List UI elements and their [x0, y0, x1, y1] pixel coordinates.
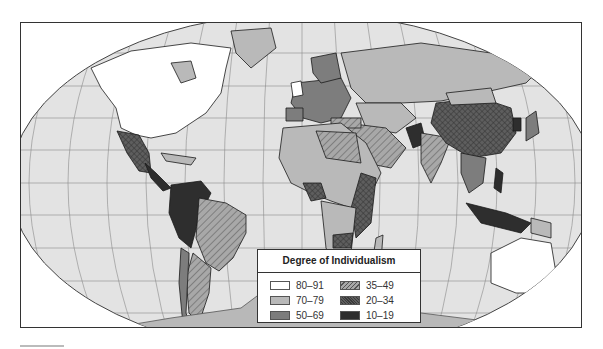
legend-label: 20–34 — [366, 295, 394, 306]
legend-item-80-91: 80–91 — [270, 278, 340, 292]
decorative-rule — [20, 345, 64, 347]
philippines — [494, 168, 503, 193]
swatch-light-gray — [270, 296, 290, 305]
swatch-white — [270, 281, 290, 290]
legend-label: 80–91 — [296, 280, 324, 291]
legend-item-35-49: 35–49 — [340, 278, 410, 292]
swatch-crosshatch — [340, 296, 360, 305]
legend-label: 10–19 — [366, 310, 394, 321]
map-frame: Degree of Individualism 80–91 35–49 70–7… — [20, 22, 582, 328]
legend-item-50-69: 50–69 — [270, 308, 340, 322]
uk — [291, 81, 303, 97]
swatch-medium-gray — [270, 311, 290, 320]
legend: Degree of Individualism 80–91 35–49 70–7… — [257, 249, 421, 323]
legend-label: 50–69 — [296, 310, 324, 321]
legend-label: 35–49 — [366, 280, 394, 291]
korea — [513, 118, 521, 131]
legend-items: 80–91 35–49 70–79 20–34 50–69 10–19 — [258, 273, 420, 322]
new-zealand — [571, 285, 582, 308]
spain — [286, 108, 303, 121]
zambia — [333, 233, 353, 248]
legend-label: 70–79 — [296, 295, 324, 306]
legend-item-20-34: 20–34 — [340, 293, 410, 307]
swatch-hatch — [340, 281, 360, 290]
legend-item-10-19: 10–19 — [340, 308, 410, 322]
swatch-dark — [340, 311, 360, 320]
legend-item-70-79: 70–79 — [270, 293, 340, 307]
legend-title: Degree of Individualism — [258, 250, 420, 273]
